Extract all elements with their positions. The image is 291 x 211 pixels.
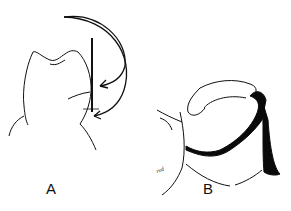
panel-label-b: B bbox=[203, 180, 213, 197]
panel-label-a: A bbox=[46, 180, 56, 197]
adjacent-tooth-line bbox=[157, 110, 182, 122]
adjacent-tooth-detail bbox=[160, 118, 172, 130]
panel-b-drawing bbox=[157, 81, 280, 195]
gingiva-right bbox=[80, 124, 96, 150]
tooth-b-bottom-right bbox=[235, 170, 262, 185]
adjacent-tooth-outline bbox=[162, 112, 184, 195]
tooth-left-side bbox=[23, 52, 33, 125]
curved-arrow-2 bbox=[64, 17, 127, 116]
cemento-enamel-line bbox=[68, 92, 90, 99]
gingiva-left bbox=[9, 116, 24, 136]
tooth-b-inner-line bbox=[204, 97, 246, 108]
tooth-b-top-outline bbox=[200, 81, 256, 96]
dental-illustration bbox=[0, 0, 291, 211]
band-retainer bbox=[262, 100, 280, 175]
panel-a-drawing bbox=[9, 16, 127, 150]
matrix-band bbox=[186, 92, 266, 156]
tooth-b-cusp bbox=[188, 88, 205, 115]
